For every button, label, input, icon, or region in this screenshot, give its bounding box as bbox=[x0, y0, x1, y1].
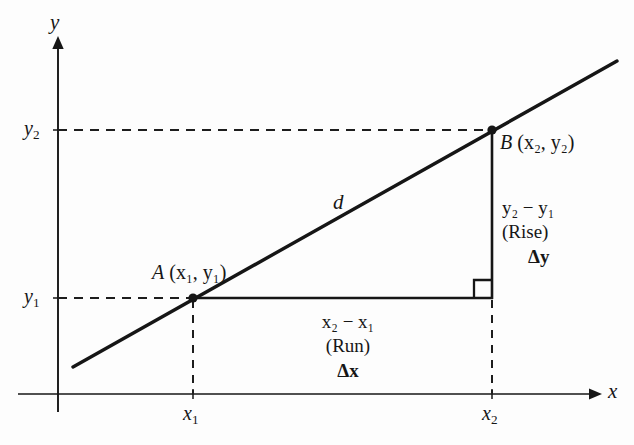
run-label-group: x₂ − x₁ (Run) Δx bbox=[288, 310, 408, 383]
right-angle-marker bbox=[474, 280, 492, 298]
point-b-coords: (x₂, y₂) bbox=[517, 131, 574, 153]
x-axis-arrowhead bbox=[589, 388, 602, 399]
point-a-marker bbox=[188, 293, 197, 302]
run-expression: x₂ − x₁ bbox=[288, 310, 408, 334]
run-delta: Δx bbox=[288, 359, 408, 383]
tick-marks-group bbox=[53, 130, 492, 399]
x-tick-label-x1: x1 bbox=[183, 403, 198, 426]
y-tick-label-y2: y2 bbox=[24, 118, 39, 141]
y-axis-label: y bbox=[50, 12, 59, 33]
point-a-label: A (x₁, y₁) bbox=[152, 262, 226, 282]
y-tick-label-y1: y1 bbox=[24, 286, 39, 309]
rise-label-group: y₂ − y₁ (Rise) Δy bbox=[502, 196, 554, 269]
x-axis-label: x bbox=[608, 381, 617, 402]
slope-distance-diagram: y x y2 y1 x1 x2 A (x₁, y₁) B (x₂, y₂) d … bbox=[0, 0, 634, 445]
y-axis-arrowhead bbox=[52, 36, 63, 49]
x-tick-label-x2: x2 bbox=[482, 403, 497, 426]
distance-label-d: d bbox=[333, 192, 344, 213]
rise-word: (Rise) bbox=[502, 220, 554, 244]
point-a-coords: (x₁, y₁) bbox=[169, 261, 226, 283]
point-b-label: B (x₂, y₂) bbox=[500, 132, 574, 152]
rise-delta: Δy bbox=[502, 245, 554, 269]
run-word: (Run) bbox=[288, 334, 408, 358]
rise-expression: y₂ − y₁ bbox=[502, 196, 554, 220]
point-b-marker bbox=[487, 125, 496, 134]
